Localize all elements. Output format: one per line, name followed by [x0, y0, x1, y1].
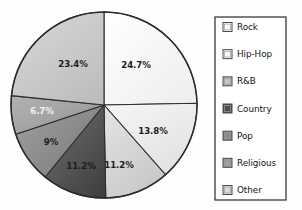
pie-slice-label-rock: 24.7% — [121, 60, 151, 70]
pie-slice-rock[interactable] — [104, 12, 197, 105]
pie-slice-label-r-b: 11.2% — [104, 160, 134, 170]
pie-slice-label-pop: 9% — [44, 137, 59, 147]
legend-label-country[interactable]: Country — [237, 104, 272, 114]
legend-label-religious[interactable]: Religious — [237, 158, 277, 168]
chart-canvas: 24.7%13.8%11.2%11.2%9%6.7%23.4% RockHip-… — [0, 0, 302, 210]
legend-label-r-b[interactable]: R&B — [237, 76, 256, 86]
legend-label-pop[interactable]: Pop — [237, 131, 253, 141]
legend-label-rock[interactable]: Rock — [237, 22, 259, 32]
pie-slice-label-other: 23.4% — [58, 59, 88, 69]
legend-label-hip-hop[interactable]: Hip-Hop — [237, 49, 273, 59]
pie-chart-figure: 24.7%13.8%11.2%11.2%9%6.7%23.4% RockHip-… — [0, 0, 302, 210]
pie-slice-label-country: 11.2% — [66, 161, 96, 171]
pie-slice-label-hip-hop: 13.8% — [138, 126, 168, 136]
chart-legend[interactable]: RockHip-HopR&BCountryPopReligiousOther — [215, 17, 286, 200]
pie-slice-label-religious: 6.7% — [30, 106, 54, 116]
legend-label-other[interactable]: Other — [237, 185, 262, 195]
